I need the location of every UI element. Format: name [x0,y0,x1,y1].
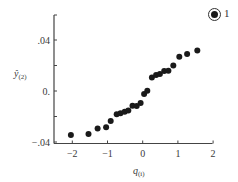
point-annotation-badge: 1 [207,7,237,23]
data-point [170,62,176,68]
data-point [86,131,92,137]
x-tick-label: −1 [102,148,113,159]
data-point [184,51,190,57]
y-axis-label: ŷ(2) [13,68,27,81]
data-point [165,68,171,74]
data-point [95,126,101,132]
x-tick-label: 2 [211,148,216,159]
x-tick-label: −2 [67,148,78,159]
data-point [176,54,182,60]
dot-icon [211,11,218,18]
data-point [108,118,114,124]
scatter-plot: −2−1012−.040..04 ŷ(2) q(i) [0,0,238,182]
x-axis-label: q(i) [133,165,145,178]
y-tick-label: 0. [43,86,51,97]
data-point [125,108,131,114]
data-point [138,100,144,106]
annotation-number: 1 [224,7,230,19]
data-point [103,124,109,130]
data-point [68,132,74,138]
y-tick-label: −.04 [32,137,50,148]
x-tick-label: 0 [140,148,145,159]
data-points [68,48,200,138]
x-tick-label: 1 [175,148,180,159]
data-point [144,88,150,94]
y-tick-label: .04 [38,35,51,46]
data-point [194,48,200,54]
axes [54,15,213,144]
